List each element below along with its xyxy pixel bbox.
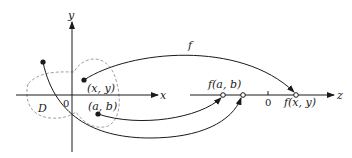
z-axis-label: z	[336, 89, 343, 102]
point-xy	[81, 77, 86, 82]
fab-label: f(a, b)	[207, 78, 241, 91]
origin-label: 0	[63, 98, 69, 109]
x-axis-label: x	[160, 89, 167, 102]
z-origin-label: 0	[265, 97, 271, 108]
domain-label: D	[37, 102, 47, 115]
image-point-fab	[221, 93, 226, 98]
point-outer	[40, 59, 45, 64]
image-point-outer	[241, 93, 246, 98]
function-mapping-diagram: y x 0 D (x, y) (a, b) f f(a, b) 0 f(x, y…	[0, 0, 352, 158]
point-xy-label: (x, y)	[87, 82, 115, 95]
mapping-arrow-xy	[84, 55, 294, 92]
mapping-arrow-outer	[43, 62, 241, 138]
fxy-label: f(x, y)	[283, 96, 316, 109]
function-label: f	[187, 39, 194, 52]
y-axis-label: y	[67, 9, 75, 22]
point-ab-label: (a, b)	[88, 100, 117, 113]
